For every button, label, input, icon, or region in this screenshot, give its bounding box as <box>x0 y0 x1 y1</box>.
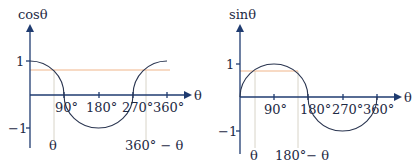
x-tick-label-180: 180° <box>86 100 117 115</box>
x-axis-label: θ <box>404 90 412 105</box>
complement-label: 360° − θ <box>125 138 183 153</box>
x-axis-label: θ <box>194 88 202 103</box>
theta-label: θ <box>49 138 57 153</box>
sin-chart: sinθ θ 1 −1 90° 180° 270° 360° θ 180°− θ <box>218 7 412 163</box>
trig-graphs-diagram: cosθ θ 1 −1 90° 180° 270° 360° θ 360° − … <box>0 0 417 163</box>
y-tick-label-1: 1 <box>226 57 234 72</box>
x-tick-label-360: 360° <box>153 100 184 115</box>
y-axis-label: cosθ <box>18 7 48 22</box>
y-tick-label-neg1: −1 <box>218 124 237 139</box>
x-tick-label-180: 180° <box>300 102 331 117</box>
y-axis-label: sinθ <box>229 7 256 22</box>
x-tick-label-270: 270° <box>332 102 363 117</box>
x-tick-label-270: 270° <box>122 100 153 115</box>
x-tick-label-360: 360° <box>363 102 394 117</box>
y-tick-label-neg1: −1 <box>8 121 27 136</box>
theta-label: θ <box>250 148 258 163</box>
y-tick-label-1: 1 <box>16 54 24 69</box>
x-tick-label-90: 90° <box>55 100 78 115</box>
x-tick-label-90: 90° <box>264 102 287 117</box>
cos-chart: cosθ θ 1 −1 90° 180° 270° 360° θ 360° − … <box>8 7 202 153</box>
supplement-label: 180°− θ <box>275 148 329 163</box>
